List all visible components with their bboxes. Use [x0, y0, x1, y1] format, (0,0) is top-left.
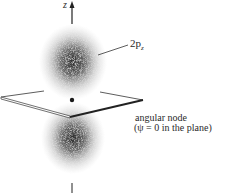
upper-lobe	[39, 24, 107, 100]
orbital-label-subscript: z	[141, 44, 144, 52]
nucleus-dot	[70, 98, 74, 102]
orbital-label-main: 2p	[130, 37, 141, 49]
z-axis-arrowhead-icon	[70, 1, 75, 8]
orbital-diagram	[0, 0, 226, 193]
angular-node-condition: (ψ = 0 in the plane)	[134, 123, 212, 133]
z-axis-label: z	[63, 0, 67, 10]
orbital-label: 2pz	[130, 38, 144, 53]
plane-back-left-edge	[1, 91, 44, 97]
plane-back-right-edge	[100, 92, 143, 100]
